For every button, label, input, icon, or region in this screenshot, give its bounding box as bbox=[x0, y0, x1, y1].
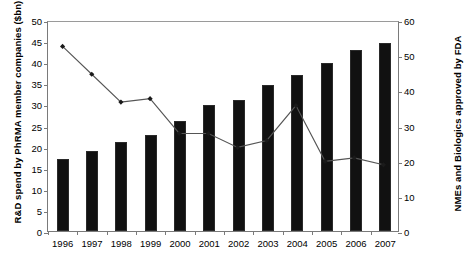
y-tick-label-left: 25 bbox=[31, 123, 42, 133]
chart-container: R&D spend by PhRMA member companies ($bn… bbox=[0, 0, 468, 265]
y-tick-right bbox=[398, 128, 402, 129]
y-tick-label-left: 20 bbox=[31, 144, 42, 154]
x-tick bbox=[77, 231, 78, 235]
y-tick-label-left: 45 bbox=[31, 38, 42, 48]
y-tick-label-left: 5 bbox=[37, 207, 42, 217]
y-tick-label-left: 15 bbox=[31, 165, 42, 175]
x-tick bbox=[312, 231, 313, 235]
x-tick-label: 2003 bbox=[257, 239, 278, 249]
line-series bbox=[48, 22, 398, 231]
x-tick bbox=[195, 231, 196, 235]
line-marker bbox=[235, 145, 240, 150]
x-tick-label: 2006 bbox=[345, 239, 366, 249]
x-tick bbox=[224, 231, 225, 235]
x-tick bbox=[107, 231, 108, 235]
x-tick bbox=[253, 231, 254, 235]
y-tick-label-left: 30 bbox=[31, 102, 42, 112]
line-marker bbox=[322, 159, 327, 164]
x-tick-label: 1998 bbox=[111, 239, 132, 249]
x-tick-label: 2000 bbox=[169, 239, 190, 249]
y-tick-label-right: 20 bbox=[404, 158, 415, 168]
x-tick bbox=[48, 231, 49, 235]
y-tick-label-right: 10 bbox=[404, 193, 415, 203]
y-tick-label-right: 60 bbox=[404, 17, 415, 27]
y-tick-right bbox=[398, 163, 402, 164]
x-tick bbox=[136, 231, 137, 235]
x-tick-label: 1996 bbox=[52, 239, 73, 249]
x-tick bbox=[283, 231, 284, 235]
x-tick bbox=[341, 231, 342, 235]
plot-area: 05101520253035404550 0102030405060 19961… bbox=[47, 21, 399, 232]
y-tick-right bbox=[398, 22, 402, 23]
y-tick-right bbox=[398, 233, 402, 234]
y-tick-label-left: 10 bbox=[31, 186, 42, 196]
x-tick bbox=[165, 231, 166, 235]
y-tick-label-left: 40 bbox=[31, 59, 42, 69]
y-tick-right bbox=[398, 198, 402, 199]
x-tick-label: 1999 bbox=[140, 239, 161, 249]
x-tick-label: 2002 bbox=[228, 239, 249, 249]
y-tick-right bbox=[398, 92, 402, 93]
x-tick bbox=[371, 231, 372, 235]
y-tick-right bbox=[398, 57, 402, 58]
x-tick-label: 2005 bbox=[316, 239, 337, 249]
y-tick-label-right: 30 bbox=[404, 123, 415, 133]
line-marker bbox=[352, 155, 357, 160]
line-marker bbox=[206, 131, 211, 136]
y-tick-label-left: 0 bbox=[37, 228, 42, 238]
y-axis-left-title: R&D spend by PhRMA member companies ($bn… bbox=[12, 24, 23, 224]
x-tick-label: 2007 bbox=[375, 239, 396, 249]
y-tick-label-left: 35 bbox=[31, 81, 42, 91]
x-tick-label: 2004 bbox=[287, 239, 308, 249]
line-marker bbox=[381, 162, 386, 167]
x-tick-label: 2001 bbox=[199, 239, 220, 249]
y-tick-label-left: 50 bbox=[31, 17, 42, 27]
y-axis-right-title: NMEs and Biologics approved by FDA bbox=[452, 24, 463, 224]
y-tick-label-right: 40 bbox=[404, 88, 415, 98]
x-tick-label: 1997 bbox=[81, 239, 102, 249]
y-tick-label-right: 0 bbox=[404, 228, 409, 238]
y-tick-label-right: 50 bbox=[404, 52, 415, 62]
